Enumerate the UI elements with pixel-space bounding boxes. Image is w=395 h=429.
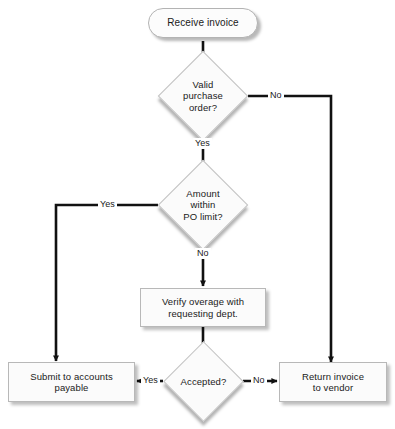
node-label-return-invoice-to-vendor: Return invoice to vendor: [302, 371, 364, 394]
node-receive-invoice[interactable]: Receive invoice: [148, 8, 258, 38]
node-submit-to-accounts-payable[interactable]: Submit to accounts payable: [8, 362, 135, 402]
edge-label-accepted-no: No: [251, 375, 267, 386]
node-return-invoice-to-vendor[interactable]: Return invoice to vendor: [279, 362, 387, 402]
node-label-amount-within-po-limit: Amount within PO limit?: [183, 188, 222, 223]
node-valid-purchase-order[interactable]: Valid purchase order?: [171, 64, 235, 128]
node-label-accepted: Accepted?: [181, 376, 227, 388]
node-accepted[interactable]: Accepted?: [175, 353, 232, 410]
node-label-verify-overage: Verify overage with requesting dept.: [162, 296, 244, 319]
node-label-submit-to-accounts-payable: Submit to accounts payable: [30, 371, 113, 394]
edge-label-limit-yes: Yes: [98, 199, 117, 210]
edge-limit-yes: [56, 205, 158, 361]
node-label-receive-invoice: Receive invoice: [167, 17, 239, 29]
node-verify-overage[interactable]: Verify overage with requesting dept.: [140, 288, 266, 327]
edge-label-limit-no: No: [195, 248, 211, 259]
edge-label-valid-no: No: [268, 90, 284, 101]
edge-label-valid-yes: Yes: [193, 138, 212, 149]
node-label-valid-purchase-order: Valid purchase order?: [183, 79, 223, 114]
flowchart-canvas: Receive invoice Valid purchase order? Am…: [0, 0, 395, 429]
node-amount-within-po-limit[interactable]: Amount within PO limit?: [171, 173, 235, 237]
edge-label-accepted-yes: Yes: [141, 375, 160, 386]
